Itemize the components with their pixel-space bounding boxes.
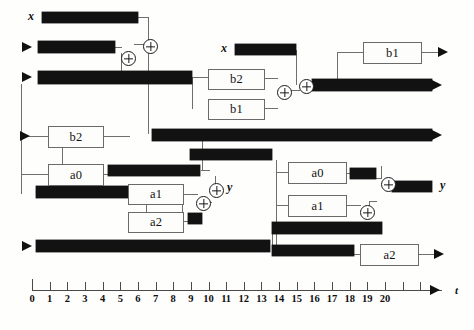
connection-wire [276,172,288,173]
operator-box[interactable]: a2 [128,212,184,233]
time-axis-tick-label: 20 [373,293,397,304]
adder-node-icon[interactable] [381,177,396,192]
connection-wire [192,77,193,109]
lifetime-bar [38,41,115,53]
time-axis-tick [209,282,210,290]
adder-node-icon[interactable] [299,79,314,94]
operator-box[interactable]: b1 [208,99,265,120]
lifetime-bar [190,149,272,160]
connection-wire [115,47,122,48]
operator-box[interactable]: a2 [360,244,419,266]
lifetime-bar [272,245,354,256]
operator-box-label: b2 [230,72,243,87]
operator-box[interactable]: b1 [363,42,422,64]
lifetime-bar [36,240,270,252]
connection-wire [276,160,277,250]
operator-box[interactable]: a1 [128,184,184,205]
connection-wire [276,205,288,206]
time-axis-tick [297,282,298,290]
time-axis-tick [244,282,245,290]
signal-label-y-mid: y [227,180,232,195]
connection-wire [296,50,297,85]
lifetime-bar [188,213,202,224]
operator-box-label: a0 [70,168,82,183]
lifetime-bar [38,71,192,84]
timing-diagram-canvas: b2a0a1a2b2b1b1a0a1a2 x x y y 01234567891… [0,0,474,330]
connection-wire [417,254,434,255]
adder-node-icon[interactable] [360,205,375,220]
connection-wire [192,77,208,78]
signal-label-x-top-left: x [28,9,34,24]
time-axis-tick [32,279,33,290]
time-axis-label: t [455,284,458,296]
connection-wire [182,194,198,195]
input-arrow-icon [22,241,32,251]
time-axis-tick [314,282,315,290]
connection-wire [21,174,48,175]
time-axis-tick [173,282,174,290]
time-axis-tick [332,282,333,290]
adder-node-icon[interactable] [143,39,158,54]
operator-box-label: a2 [383,248,395,263]
signal-label-y-right: y [440,178,445,193]
input-arrow-icon [22,42,32,52]
input-arrow-icon [22,72,32,82]
lifetime-bar [392,181,432,192]
time-axis-tick [385,282,386,290]
time-axis-line [32,290,442,291]
lifetime-bar [42,12,138,23]
lifetime-bar [108,165,200,176]
time-axis-tick [367,282,368,290]
input-arrow-icon [20,131,30,141]
connection-wire [138,17,148,18]
time-axis-tick [50,282,51,290]
operator-box[interactable]: a0 [48,164,104,186]
time-axis-tick [85,282,86,290]
time-axis-tick [279,282,280,290]
time-axis-tick [67,282,68,290]
time-axis-tick [403,282,404,290]
time-axis-tick [420,282,421,290]
operator-box[interactable]: a1 [288,195,347,217]
operator-box-label: b1 [386,46,399,61]
time-axis-tick [156,282,157,290]
signal-label-x-mid-top: x [221,41,227,56]
connection-wire [345,205,361,206]
connection-wire [263,78,278,79]
operator-box-label: a1 [311,199,323,214]
lifetime-bar [312,79,432,91]
adder-node-icon[interactable] [121,51,136,66]
operator-box[interactable]: b2 [208,69,265,90]
connection-wire [148,50,149,134]
time-axis-tick [350,282,351,290]
operator-box[interactable]: a0 [288,162,347,184]
time-axis-tick [138,282,139,290]
lifetime-bar [235,44,296,55]
adder-node-icon[interactable] [196,196,211,211]
adder-node-icon[interactable] [277,85,292,100]
operator-box-label: b2 [70,130,83,145]
operator-box[interactable]: b2 [48,126,104,148]
time-axis-tick [103,282,104,290]
connection-wire [381,166,382,178]
operator-box-label: a1 [150,187,162,202]
operator-box-label: a2 [150,215,162,230]
time-axis-tick [120,282,121,290]
connection-wire [102,136,130,137]
operator-box-label: a0 [311,166,323,181]
adder-node-icon[interactable] [209,183,224,198]
operator-box-label: b1 [230,102,243,117]
time-axis-tick [226,282,227,290]
output-arrow-icon [438,47,448,57]
time-axis-tick [191,282,192,290]
connection-wire [376,178,382,179]
time-axis-tick [261,282,262,290]
output-arrow-icon [432,130,442,140]
lifetime-bar [350,168,376,179]
time-axis-arrow-icon [430,285,440,295]
output-arrow-icon [434,249,444,259]
lifetime-bar [152,129,432,141]
connection-wire [369,201,377,202]
connection-wire [263,108,278,109]
connection-wire [420,52,438,53]
